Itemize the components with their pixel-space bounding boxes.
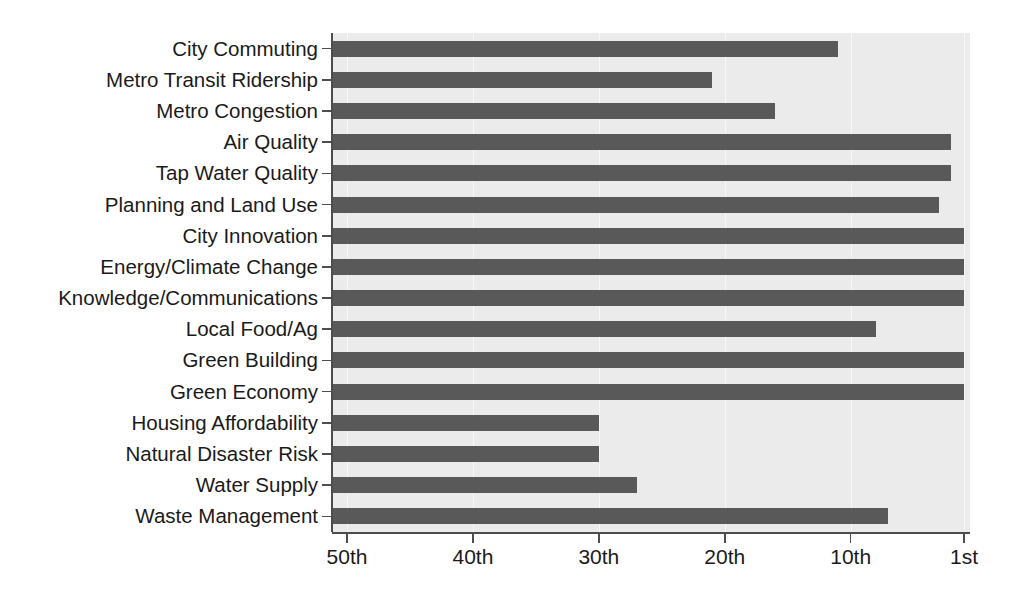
bar <box>332 259 964 275</box>
y-axis-tick-label: Metro Congestion <box>0 101 318 122</box>
y-axis-tick-label: Green Building <box>0 350 318 371</box>
y-axis-tick <box>322 110 331 112</box>
bar <box>332 165 951 181</box>
y-axis-tick <box>322 204 331 206</box>
bar <box>332 134 951 150</box>
y-axis-tick <box>322 235 331 237</box>
y-axis-tick <box>322 328 331 330</box>
gridline <box>851 33 852 532</box>
y-axis-tick <box>322 173 331 175</box>
x-axis-tick-label: 50th <box>327 546 368 567</box>
x-axis-tick-label: 30th <box>578 546 619 567</box>
y-axis-tick-label: Green Economy <box>0 382 318 403</box>
y-axis-tick-label: Water Supply <box>0 475 318 496</box>
x-axis-tick <box>472 533 474 543</box>
x-axis-tick <box>598 533 600 543</box>
y-axis-tick-label: City Innovation <box>0 226 318 247</box>
x-axis-tick <box>724 533 726 543</box>
y-axis-tick <box>322 484 331 486</box>
y-axis-tick-label: Waste Management <box>0 506 318 527</box>
y-axis-line <box>331 33 333 532</box>
gridline <box>964 33 965 532</box>
bar-chart-figure: City CommutingMetro Transit RidershipMet… <box>0 0 1028 606</box>
y-axis-tick <box>322 79 331 81</box>
y-axis-tick-label: Knowledge/Communications <box>0 288 318 309</box>
y-axis-tick <box>322 422 331 424</box>
bar <box>332 352 964 368</box>
x-axis-tick-label: 40th <box>452 546 493 567</box>
y-axis-tick-label: Energy/Climate Change <box>0 257 318 278</box>
bar <box>332 290 964 306</box>
y-axis-tick <box>322 453 331 455</box>
y-axis-tick-label: Housing Affordability <box>0 413 318 434</box>
y-axis-tick <box>322 516 331 518</box>
y-axis-tick-label: Metro Transit Ridership <box>0 70 318 91</box>
bar <box>332 446 599 462</box>
bar <box>332 103 775 119</box>
y-axis-tick-label: Local Food/Ag <box>0 319 318 340</box>
y-axis-tick-label: Tap Water Quality <box>0 163 318 184</box>
bar <box>332 321 876 337</box>
y-axis-tick-label: Planning and Land Use <box>0 195 318 216</box>
x-axis-tick-label: 1st <box>950 546 978 567</box>
plot-area <box>332 33 970 532</box>
x-axis-tick <box>963 533 965 543</box>
y-axis-tick-label: City Commuting <box>0 39 318 60</box>
bar <box>332 508 888 524</box>
y-axis-tick <box>322 360 331 362</box>
x-axis-tick <box>850 533 852 543</box>
bar <box>332 72 712 88</box>
x-axis-line <box>332 532 970 534</box>
y-axis-tick <box>322 266 331 268</box>
x-axis-tick-label: 10th <box>830 546 871 567</box>
bar <box>332 384 964 400</box>
x-axis-tick <box>346 533 348 543</box>
y-axis-tick-label: Air Quality <box>0 132 318 153</box>
x-axis-tick-label: 20th <box>704 546 745 567</box>
y-axis-tick <box>322 141 331 143</box>
bar <box>332 41 838 57</box>
bar <box>332 477 637 493</box>
bar <box>332 228 964 244</box>
y-axis-tick <box>322 297 331 299</box>
y-axis-tick <box>322 48 331 50</box>
bar <box>332 197 939 213</box>
y-axis-tick <box>322 391 331 393</box>
bar <box>332 415 599 431</box>
y-axis-tick-label: Natural Disaster Risk <box>0 444 318 465</box>
